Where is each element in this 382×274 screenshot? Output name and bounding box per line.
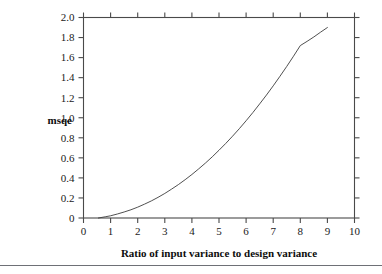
y-tick-label: 1.8 <box>61 31 75 43</box>
x-tick-label: 7 <box>270 225 276 237</box>
x-tick-label: 0 <box>81 225 87 237</box>
y-tick-label: 1.6 <box>61 51 75 63</box>
x-tick-label: 2 <box>135 225 141 237</box>
x-tick-label: 8 <box>298 225 304 237</box>
y-tick-label: 0 <box>69 212 75 224</box>
msqe-line-chart: 00.20.40.60.81.01.21.41.61.82.0 01234567… <box>0 0 382 274</box>
x-tick-label: 9 <box>325 225 331 237</box>
y-axis-title: msqe <box>48 114 73 126</box>
figure-container: 00.20.40.60.81.01.21.41.61.82.0 01234567… <box>0 0 382 274</box>
y-tick-label: 2.0 <box>61 11 75 23</box>
x-axis-title: Ratio of input variance to design varian… <box>121 247 317 259</box>
y-tick-label: 0.4 <box>61 172 75 184</box>
x-tick-label: 6 <box>243 225 249 237</box>
y-tick-label: 1.4 <box>61 71 75 83</box>
y-tick-label: 1.2 <box>61 92 75 104</box>
y-tick-label: 0.6 <box>61 152 75 164</box>
y-tick-label: 0.2 <box>61 192 75 204</box>
x-tick-label: 1 <box>108 225 114 237</box>
y-tick-label: 0.8 <box>61 132 75 144</box>
x-tick-label: 4 <box>189 225 195 237</box>
x-tick-label: 10 <box>349 225 361 237</box>
x-tick-label: 3 <box>162 225 168 237</box>
x-tick-label: 5 <box>216 225 222 237</box>
